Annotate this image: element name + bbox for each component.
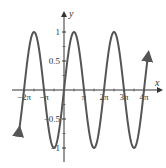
- y-tick-label: 0.5: [49, 56, 61, 66]
- x-axis-label: x: [154, 77, 160, 88]
- y-axis-label: y: [68, 8, 74, 19]
- sine-graph: −2π−ππ2π3π4π 10.5−0.5−1 x y: [0, 0, 166, 168]
- y-tick-label: 1: [56, 27, 61, 37]
